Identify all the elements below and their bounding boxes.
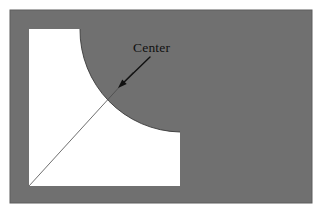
center-label: Center: [133, 40, 170, 55]
geometry-diagram-svg: Center: [0, 0, 321, 212]
figure-root: Center: [0, 0, 321, 212]
